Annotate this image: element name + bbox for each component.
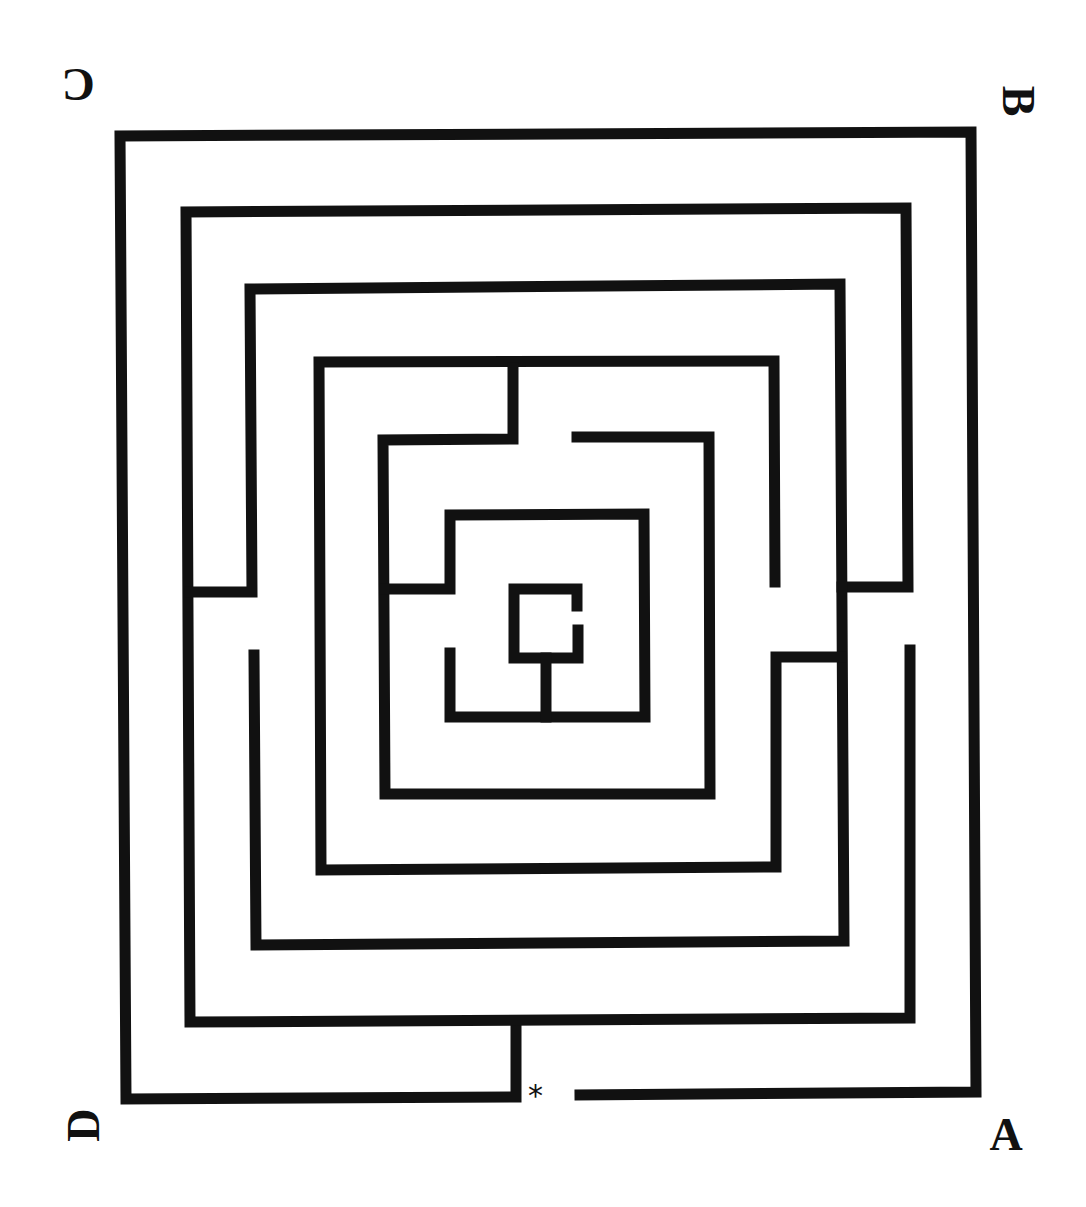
maze-wall-6 bbox=[514, 589, 578, 658]
label-a: A bbox=[981, 1110, 1031, 1160]
start-marker: * bbox=[528, 1081, 543, 1111]
label-c: C bbox=[53, 59, 103, 109]
maze-wall-0 bbox=[120, 132, 976, 1099]
maze-wall-4 bbox=[383, 368, 710, 794]
maze-wall-1 bbox=[186, 208, 910, 1022]
label-b: B bbox=[993, 76, 1043, 126]
label-d: D bbox=[59, 1100, 109, 1150]
maze-diagram bbox=[0, 0, 1086, 1207]
